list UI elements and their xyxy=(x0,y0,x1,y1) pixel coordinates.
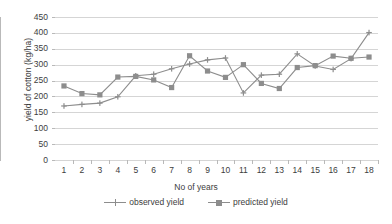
observed-yield-marker-icon xyxy=(104,198,126,207)
data-point xyxy=(187,53,192,58)
x-axis-tick xyxy=(270,160,271,164)
y-axis-tick-label: 400 xyxy=(0,28,48,37)
x-axis-tick xyxy=(217,160,218,164)
data-point xyxy=(187,61,193,67)
plot-area xyxy=(55,17,378,160)
data-point xyxy=(277,86,282,91)
data-point xyxy=(331,53,336,58)
data-point xyxy=(97,100,103,106)
data-point xyxy=(97,92,102,97)
series-line-observed-yield xyxy=(64,33,369,106)
x-axis-tick xyxy=(324,160,325,164)
chart-legend: observed yield predicted yield xyxy=(0,198,392,207)
data-point xyxy=(169,85,174,90)
x-axis-tick xyxy=(163,160,164,164)
data-point xyxy=(330,67,336,73)
data-point xyxy=(169,66,175,72)
data-point xyxy=(115,74,120,79)
data-point xyxy=(151,71,157,77)
x-axis-tick xyxy=(145,160,146,164)
series-layer xyxy=(55,17,378,160)
data-point xyxy=(223,55,229,61)
x-axis-tick xyxy=(109,160,110,164)
x-axis-tick xyxy=(91,160,92,164)
series-line-predicted-yield xyxy=(64,56,369,95)
data-point xyxy=(366,54,371,59)
data-point xyxy=(259,81,264,86)
x-axis-tick xyxy=(234,160,235,164)
x-axis-tick xyxy=(199,160,200,164)
line-chart: yield of cotton (kg/ha) 0501001502002503… xyxy=(0,0,392,224)
data-point xyxy=(151,77,156,82)
predicted-yield-marker-icon xyxy=(208,198,230,207)
x-axis-tick xyxy=(306,160,307,164)
y-axis-tick-label: 200 xyxy=(0,92,48,101)
data-point xyxy=(295,65,300,70)
data-point xyxy=(348,56,353,61)
data-point xyxy=(205,68,210,73)
x-axis-tick xyxy=(127,160,128,164)
y-axis-tick-label: 0 xyxy=(0,156,48,165)
legend-item-observed-yield[interactable]: observed yield xyxy=(104,198,184,207)
y-axis-tick-label: 50 xyxy=(0,140,48,149)
data-point xyxy=(133,74,138,79)
data-point xyxy=(313,63,318,68)
x-axis-tick xyxy=(73,160,74,164)
data-point xyxy=(61,83,66,88)
x-axis-tick xyxy=(288,160,289,164)
x-axis-title: No of years xyxy=(0,183,392,192)
x-axis-tick xyxy=(360,160,361,164)
y-axis-tick-label: 450 xyxy=(0,13,48,22)
x-axis-tick xyxy=(252,160,253,164)
data-point xyxy=(223,75,228,80)
x-axis-tick xyxy=(378,160,379,164)
data-point xyxy=(61,103,67,109)
x-axis-tick-label: 18 xyxy=(359,166,379,175)
legend-label-observed-yield: observed yield xyxy=(129,198,184,207)
y-axis-tick-label: 250 xyxy=(0,76,48,85)
data-point xyxy=(241,62,246,67)
data-point xyxy=(79,91,84,96)
y-axis-tick-label: 100 xyxy=(0,124,48,133)
legend-label-predicted-yield: predicted yield xyxy=(233,198,288,207)
legend-item-predicted-yield[interactable]: predicted yield xyxy=(208,198,288,207)
x-axis-tick xyxy=(181,160,182,164)
y-axis-tick-label: 350 xyxy=(0,44,48,53)
data-point xyxy=(79,102,85,108)
y-axis-tick-label: 300 xyxy=(0,60,48,69)
y-axis-tick-label: 150 xyxy=(0,108,48,117)
x-axis-tick xyxy=(342,160,343,164)
data-point xyxy=(205,57,211,63)
